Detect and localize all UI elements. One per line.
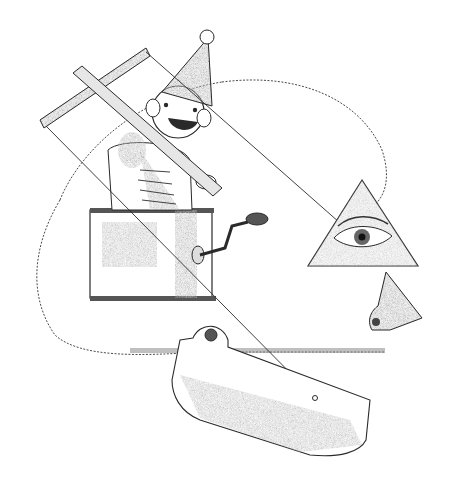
illustration-canvas [0,0,449,493]
baseline-shading [130,348,385,353]
nose-piece [370,272,422,330]
eye-triangle [308,180,418,266]
jaw-piece [172,326,370,456]
jack-in-the-box [90,208,268,301]
string-eyelet [313,396,318,401]
nose-rivet [372,318,380,326]
sketch-svg [0,0,449,493]
puppet-eye-right [193,108,197,112]
hat-pompom [200,30,214,44]
puppet-eye-left [164,103,168,107]
jaw-pivot [205,329,217,341]
